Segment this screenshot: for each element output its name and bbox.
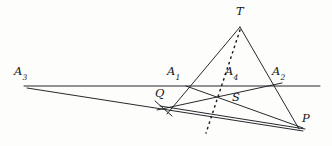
point-label-S-base: S [232, 90, 240, 104]
point-label-A3-sub: 3 [23, 73, 28, 82]
point-label-A4-sub: 4 [234, 73, 239, 82]
point-label-A4-base: A [225, 64, 234, 78]
point-label-Q: Q [155, 88, 165, 100]
point-label-A1-base: A [167, 64, 176, 78]
line-T-A2-P [240, 27, 299, 129]
point-label-A2-base: A [272, 64, 281, 78]
point-label-T: T [236, 6, 244, 18]
line-Q-S-A2 [157, 83, 282, 110]
point-label-Q-base: Q [155, 86, 165, 100]
point-label-S: S [232, 92, 240, 104]
point-label-P: P [302, 113, 310, 125]
point-label-A1: A1 [167, 66, 181, 78]
point-label-A3-base: A [14, 64, 23, 78]
point-label-A3: A3 [14, 66, 28, 78]
line-Q-P [160, 106, 305, 129]
point-label-A2-sub: 2 [281, 73, 286, 82]
point-label-A4: A4 [225, 66, 239, 78]
geometry-figure: A3 A1 A4 A2 T Q S P [0, 0, 332, 146]
point-label-A1-sub: 1 [176, 73, 181, 82]
point-label-P-base: P [302, 111, 310, 125]
point-label-T-base: T [236, 4, 244, 18]
point-label-A2: A2 [272, 66, 286, 78]
